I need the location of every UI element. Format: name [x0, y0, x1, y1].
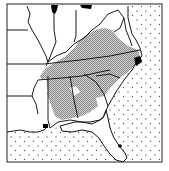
disjunct-population-gulf: [43, 124, 48, 128]
range-map: [0, 0, 169, 171]
map-canvas: [0, 0, 169, 171]
disjunct-population-florida: [118, 144, 122, 148]
